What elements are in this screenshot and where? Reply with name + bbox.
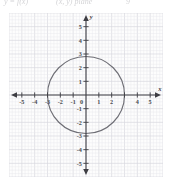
svg-text:1: 1 [79,78,82,85]
svg-text:5: 5 [149,98,152,105]
svg-text:-1: -1 [77,105,82,112]
svg-text:x: x [157,85,162,92]
figure-page: y = f(x) (x, y) plane 9 -5-4-3-2-11245-5… [0,0,171,182]
coordinate-plane: -5-4-3-2-11245-5-4-3-2-1123450xy [9,13,163,177]
header-text-strip: y = f(x) (x, y) plane 9 [0,0,171,11]
svg-text:-5: -5 [77,160,82,167]
header-fragment-right: 9 [126,0,130,6]
svg-text:4: 4 [136,98,139,105]
svg-text:-4: -4 [77,146,82,153]
svg-text:2: 2 [110,98,113,105]
svg-text:-1: -1 [71,98,76,105]
svg-text:-3: -3 [77,132,82,139]
svg-text:5: 5 [79,23,82,30]
svg-text:2: 2 [79,64,82,71]
svg-text:1: 1 [97,98,100,105]
header-fragment-middle: (x, y) plane [56,0,92,6]
axes-and-curve-layer: -5-4-3-2-11245-5-4-3-2-1123450xy [9,13,163,177]
header-fragment-left: y = f(x) [4,0,28,6]
svg-text:-3: -3 [45,98,50,105]
svg-text:0: 0 [80,98,83,105]
svg-text:4: 4 [79,37,82,44]
svg-text:-4: -4 [32,98,37,105]
svg-text:-5: -5 [19,98,24,105]
svg-text:-2: -2 [58,98,63,105]
svg-text:3: 3 [79,50,82,57]
svg-text:-2: -2 [77,119,82,126]
svg-text:y: y [89,13,93,20]
